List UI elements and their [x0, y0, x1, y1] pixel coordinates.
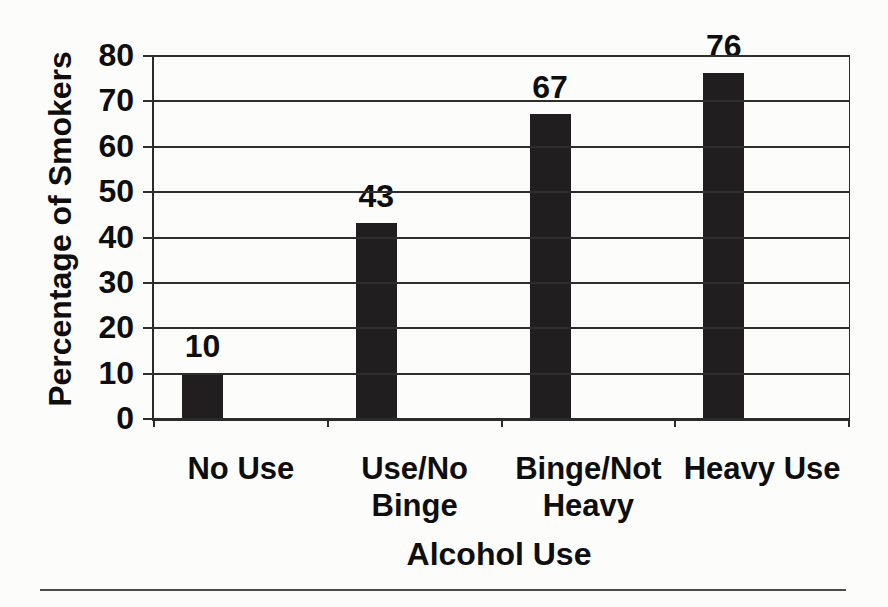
scanned-bar-chart-page: Percentage of Smokers 0 10 20 30 40 50 6…: [0, 0, 888, 607]
gridline-70: [143, 100, 849, 102]
category-label-heavy-use: Heavy Use: [672, 450, 852, 487]
gridline-50: [143, 191, 849, 193]
gridline-80: [143, 55, 849, 57]
plot-area: 0 10 20 30 40 50 60 70 80 10 43 67 76 No…: [152, 55, 850, 421]
gridline-60: [143, 146, 849, 148]
x-axis-tick-4: [848, 418, 850, 427]
gridline-20: [143, 327, 849, 329]
bar-use-no-binge: [356, 223, 397, 418]
category-label-use-no-binge: Use/No Binge: [325, 450, 505, 524]
y-tick-label-30: 30: [54, 265, 134, 299]
y-tick-label-80: 80: [54, 38, 134, 72]
x-axis-title: Alcohol Use: [407, 536, 592, 573]
gridline-40: [143, 237, 849, 239]
bar-value-label-binge-not-heavy: 67: [532, 72, 568, 102]
y-tick-label-10: 10: [54, 356, 134, 390]
y-tick-label-60: 60: [54, 129, 134, 163]
gridline-10: [143, 373, 849, 375]
category-label-no-use: No Use: [151, 450, 331, 487]
x-axis-tick-0: [153, 418, 155, 427]
x-axis-tick-3: [674, 418, 676, 427]
bar-no-use: [182, 373, 223, 418]
bottom-rule: [40, 589, 846, 591]
y-tick-label-40: 40: [54, 220, 134, 254]
y-tick-label-20: 20: [54, 310, 134, 344]
gridline-30: [143, 282, 849, 284]
x-axis-tick-2: [501, 418, 503, 427]
y-tick-label-70: 70: [54, 83, 134, 117]
category-label-binge-not-heavy: Binge/Not Heavy: [498, 450, 678, 524]
y-tick-label-50: 50: [54, 174, 134, 208]
bar-value-label-no-use: 10: [185, 331, 221, 361]
bar-value-label-use-no-binge: 43: [358, 181, 394, 211]
bar-heavy-use: [703, 73, 744, 418]
y-tick-label-0: 0: [54, 401, 134, 435]
x-axis-tick-1: [327, 418, 329, 427]
